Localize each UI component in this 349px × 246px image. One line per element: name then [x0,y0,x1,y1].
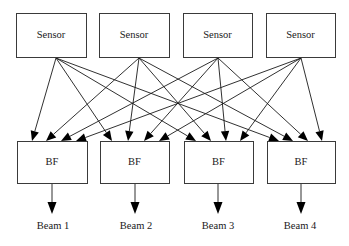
sensor-box-3-label: Sensor [203,29,232,40]
bf-box-1: BF [18,142,88,184]
edge-sensor4-bf4-arrowhead-icon [315,130,323,141]
bf2-output-arrowhead-icon [131,202,140,214]
beam-2-label: Beam 2 [120,220,152,231]
bf3-output-arrowhead-icon [214,202,223,214]
edge-sensor1-bf3-arrowhead-icon [185,132,196,141]
beam-3-label: Beam 3 [202,220,234,231]
edge-sensor1-bf1-line [35,58,56,131]
sensor-box-4-label: Sensor [286,29,315,40]
bf-box-2: BF [101,142,170,184]
edge-sensor2-bf2-line [129,58,139,131]
bf4-output-arrowhead-icon [297,202,306,214]
edge-sensor2-bf3-arrowhead-icon [201,131,211,141]
edge-sensor2-bf3-line [139,58,204,133]
edge-sensor4-bf1-arrowhead-icon [76,134,87,142]
edge-sensor1-bf2-line [56,58,106,133]
beam-4-label: Beam 4 [284,220,317,231]
bf-box-4: BF [268,142,336,184]
sensor-box-1: Sensor [17,14,87,58]
edge-sensor1-bf4-arrowhead-icon [268,134,279,142]
beam-1-label: Beam 1 [37,220,69,231]
bf1-output-arrowhead-icon [48,202,57,214]
edge-sensor2-bf2-arrowhead-icon [125,131,133,141]
sensor-box-4: Sensor [267,14,336,58]
bf-box-1-label: BF [46,156,59,167]
sensor-box-2-label: Sensor [120,29,149,40]
bf-box-3-label: BF [212,156,225,167]
edge-sensor3-bf1-arrowhead-icon [61,133,72,141]
edge-sensor4-bf3-arrowhead-icon [240,130,249,141]
sensor-to-bf-connections [31,58,324,141]
bf-box-4-label: BF [295,156,308,167]
edge-sensor4-bf2-arrowhead-icon [159,132,170,141]
edge-sensor1-bf4-line [56,58,270,138]
bf-box-2-label: BF [128,156,141,167]
edge-sensor1-bf1-arrowhead-icon [31,130,39,141]
sensor-box-1-label: Sensor [37,29,66,40]
sensor-beamformer-diagram: Sensor Sensor Sensor Sensor BF BF BF BF … [0,0,349,246]
edge-sensor1-bf2-arrowhead-icon [103,130,112,141]
edge-sensor4-bf1-line [85,58,301,138]
bf-box-3: BF [185,142,254,184]
edge-sensor4-bf3-line [246,58,301,133]
edge-sensor3-bf3-arrowhead-icon [221,131,229,141]
sensor-box-2: Sensor [100,14,170,58]
sensor-box-3: Sensor [184,14,253,58]
beam-output-arrows [48,184,306,214]
edge-sensor3-bf3-line [218,58,225,131]
edge-sensor4-bf4-line [301,58,320,131]
edge-sensor2-bf4-arrowhead-icon [282,133,293,141]
